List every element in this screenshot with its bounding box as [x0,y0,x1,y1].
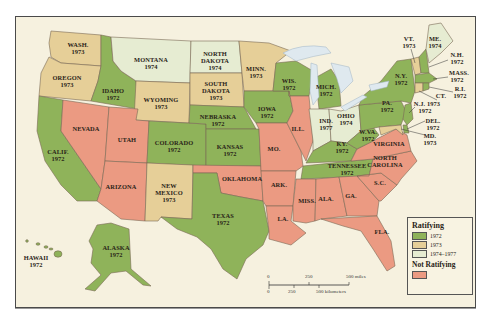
state-de [403,125,409,133]
label-mo: MO. [268,145,281,152]
legend-label-1973: 1973 [430,242,442,248]
label-nj: N.J. 1973 [414,100,440,107]
label-ut: UTAH [118,136,136,143]
label-nh-year: 1972 [450,58,463,65]
label-ct: CT. [436,92,447,99]
label-ms: MISS. [298,197,316,204]
label-ak: ALASKA [102,244,130,251]
label-oh-year: 1974 [339,119,353,126]
swatch-not-ratifying [412,271,427,279]
label-md-year: 1973 [423,139,436,146]
state-ar [261,171,296,206]
label-vt-year: 1973 [402,42,415,49]
label-la: LA. [278,215,289,222]
label-co: COLORADO [155,139,193,146]
label-hi-year: 1972 [29,261,42,268]
label-wy: WYOMING [144,96,179,103]
label-in: IND. [319,117,333,124]
state-az [97,161,147,221]
legend-title-ratifying: Ratifying [412,221,472,230]
legend-item-1974-1977: 1974–1977 [412,250,472,257]
state-nj [403,103,413,125]
label-nd-1: NORTH [203,50,227,57]
scale-km-0: 0 [267,289,270,294]
label-mt-year: 1974 [144,63,158,70]
label-nv: NEVADA [72,125,99,132]
label-nc-2: CAROLINA [367,161,403,168]
scale-km-250: 250 [288,289,296,294]
legend-label-1974-1977: 1974–1977 [430,251,456,257]
label-va: VIRGINIA [373,140,405,147]
label-mt: MONTANA [134,56,168,63]
label-nm-2: MEXICO [155,189,183,196]
label-nc-1: NORTH [373,154,397,161]
label-ma-year: 1972 [450,76,463,83]
label-pa: PA. [382,99,392,106]
label-ar: ARK. [271,181,288,188]
label-hi: HAWAII [24,254,49,261]
label-wi: WIS. [282,77,297,84]
label-wi-year: 1972 [282,84,295,91]
map-frame: WASH. 1973 OREGON 1973 CALIF. 1972 IDAHO… [15,16,476,308]
label-vt: VT. [404,35,415,42]
swatch-1974-1977 [412,250,427,258]
label-ky-year: 1972 [335,147,348,154]
label-sd-year: 1973 [209,94,222,101]
scale-miles-0: 0 [267,274,270,279]
label-ky: KY. [337,140,348,147]
label-me: ME. [429,35,441,42]
label-ia: IOWA [258,105,276,112]
swatch-1972 [412,232,427,240]
label-ri-year: 1972 [453,92,466,99]
lake-superior [283,46,331,61]
label-ks-year: 1972 [223,150,236,157]
label-mi-year: 1972 [319,90,332,97]
state-ma [415,73,437,83]
label-sc: S.C. [374,179,386,186]
scale-miles-500: 500 miles [346,274,366,279]
label-wy-year: 1973 [154,103,167,110]
label-ri: R.I. [455,85,466,92]
label-mi: MICH. [316,83,337,90]
legend-item-not-ratifying [412,271,472,278]
label-sd-1: SOUTH [205,80,228,87]
legend-title-not-ratifying: Not Ratifying [412,260,472,269]
label-wa: WASH. [68,41,89,48]
label-sd-2: DAKOTA [202,87,230,94]
label-ny-year: 1972 [394,79,407,86]
label-ok: OKLAHOMA [222,175,262,182]
label-tx: TEXAS [212,212,234,219]
label-oh: OHIO [337,112,355,119]
label-ne: NEBRASKA [200,113,237,120]
label-me-year: 1974 [428,42,442,49]
label-al: ALA. [318,195,334,202]
swatch-1973 [412,241,427,249]
scale-km-500: 500 kilometers [316,289,346,294]
label-pa-year: 1972 [380,106,393,113]
label-ne-year: 1972 [211,120,224,127]
label-ny: N.Y. [395,72,408,79]
label-md: MD. [424,132,437,139]
legend-item-1973: 1973 [412,241,472,248]
label-nd-2: DAKOTA [201,57,229,64]
state-ri [423,83,429,91]
label-nh: N.H. [450,51,463,58]
label-co-year: 1972 [167,146,180,153]
state-ct [415,83,423,93]
label-tx-year: 1972 [216,219,229,226]
label-nm-1: NEW [161,182,177,189]
label-ak-year: 1972 [109,251,122,258]
label-or: OREGON [52,74,81,81]
label-tn: TENNESSEE [328,162,367,169]
label-mn: MINN. [246,65,266,72]
legend-label-1972: 1972 [430,233,442,239]
label-ks: KANSAS [217,143,244,150]
label-az: ARIZONA [106,183,137,190]
label-ga: GA. [345,192,357,199]
label-nj-year: 1972 [418,107,431,114]
label-ma: MASS. [449,69,469,76]
label-tn-year: 1972 [340,169,353,176]
label-ca-year: 1972 [51,155,64,162]
label-il: ILL. [291,125,304,132]
map-legend: Ratifying 1972 1973 1974–1977 Not Ratify… [407,217,473,295]
